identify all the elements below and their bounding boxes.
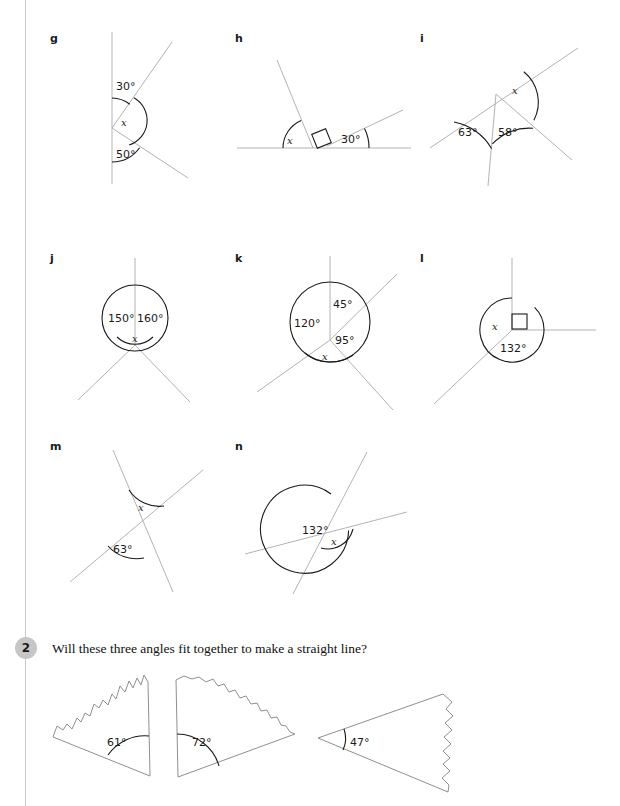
figure-k-ray-down-right (330, 340, 393, 410)
figure-g-angle-x: x (121, 117, 127, 128)
margin-rule (25, 0, 26, 806)
figure-m-angle-x: x (138, 502, 144, 513)
figure-l: x 132° (420, 252, 600, 412)
figure-i-angle-x: x (512, 85, 518, 96)
question-2-text: Will these three angles fit together to … (52, 641, 367, 657)
torn-shape-3-ragged-edge (442, 694, 453, 792)
figure-j: 150° 160° x (60, 252, 220, 412)
torn-shape-3: 47° (310, 690, 470, 800)
figure-h: x 30° (235, 38, 415, 168)
figure-h-angle-30: 30° (341, 133, 361, 146)
figure-n-angle-x: x (331, 536, 337, 547)
figure-l-angle-132: 132° (500, 342, 527, 355)
figure-g-arc-30 (112, 98, 130, 104)
torn-shape-2-ragged-edge (176, 676, 295, 734)
figure-m-line-2 (70, 470, 203, 582)
figure-j-ray-down-right (135, 345, 190, 402)
figure-k-angle-95: 95° (335, 334, 355, 347)
figure-h-ray-left (277, 60, 313, 148)
worksheet-page: g 30° x 50° h x 30° i (0, 0, 620, 806)
figure-n-line-2 (293, 452, 367, 594)
figure-g-angle-30: 30° (116, 80, 136, 93)
figure-i-angle-58: 58° (498, 126, 518, 139)
torn-shape-2-left-edge (176, 680, 178, 777)
figure-m: x 63° (55, 442, 225, 597)
figure-n: 132° x (235, 442, 415, 597)
figure-i-angle-63: 63° (458, 126, 478, 139)
figure-h-ray-right (327, 110, 403, 146)
figure-label-k: k (235, 252, 242, 265)
figure-j-angle-160: 160° (137, 312, 164, 325)
torn-shape-3-angle-arc (343, 729, 346, 750)
torn-shape-3-angle-label: 47° (350, 736, 370, 749)
figure-j-ray-down-left (78, 345, 135, 400)
figure-m-angle-63: 63° (113, 543, 133, 556)
torn-shape-2: 72° (168, 672, 313, 797)
figure-m-arc-x (129, 490, 164, 506)
torn-shape-1-ragged-edge (53, 675, 148, 737)
question-number-2: 2 (15, 637, 37, 659)
figure-i-arc-x (524, 72, 539, 120)
figure-l-right-angle-marker (512, 314, 527, 329)
figure-k: 45° 120° 95° x (245, 252, 415, 422)
figure-k-angle-45: 45° (333, 298, 353, 311)
torn-shape-1-bottom-edge (53, 737, 150, 776)
figure-n-angle-132: 132° (302, 524, 329, 537)
figure-h-angle-x: x (287, 135, 293, 146)
figure-label-j: j (50, 252, 54, 265)
figure-g-angle-50: 50° (116, 148, 136, 161)
torn-shape-2-angle-label: 72° (192, 736, 212, 749)
figure-k-angle-120: 120° (294, 317, 321, 330)
torn-shape-3-bottom-edge (318, 738, 448, 792)
figure-l-angle-x: x (492, 321, 498, 332)
figure-k-angle-x: x (322, 351, 328, 362)
figure-j-angle-150: 150° (108, 312, 135, 325)
figure-label-g: g (50, 32, 58, 45)
figure-k-ray-down-left (257, 340, 330, 392)
figure-i: 63° 58° x (420, 30, 600, 190)
figure-g: 30° x 50° (60, 28, 210, 188)
torn-shape-3-top-edge (318, 694, 443, 738)
figure-g-arc-x (129, 98, 147, 145)
torn-shape-1-angle-label: 61° (107, 736, 127, 749)
figure-j-angle-x: x (132, 333, 138, 344)
figure-h-arc-30 (365, 129, 370, 148)
torn-shape-1-right-edge (148, 682, 150, 776)
